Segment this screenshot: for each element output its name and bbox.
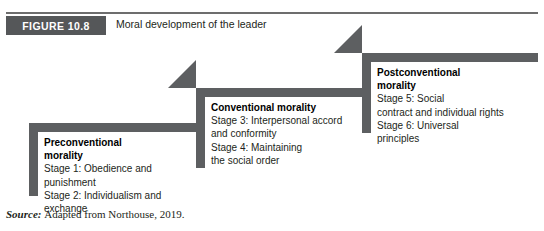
stage-block-postconventional: Postconventional morality Stage 5: Socia… <box>362 53 538 133</box>
stage-body-line-1: Stage 1: Obedience and <box>44 162 161 175</box>
source-citation: Adapted from Northouse, 2019. <box>44 208 184 220</box>
stage-block-text: Conventional morality Stage 3: Interpers… <box>211 101 342 167</box>
figure-container: FIGURE 10.8 Moral development of the lea… <box>0 0 544 231</box>
header-divider <box>6 12 538 14</box>
stage-title-line-1: Preconventional <box>44 136 161 149</box>
stage-body-line-1: Stage 5: Social <box>377 92 504 105</box>
stage-body-line-3: Stage 6: Universal <box>377 119 504 132</box>
block-frame-top <box>196 88 366 97</box>
stage-body-line-2: punishment <box>44 176 161 189</box>
block-frame-top <box>362 53 538 62</box>
stage-title-line-1: Conventional morality <box>211 101 342 114</box>
stage-body-line-4: the social order <box>211 154 342 167</box>
stage-body-line-3: Stage 4: Maintaining <box>211 141 342 154</box>
stage-block-text: Preconventional morality Stage 1: Obedie… <box>44 136 161 215</box>
stage-block-text: Postconventional morality Stage 5: Socia… <box>377 66 504 145</box>
figure-number-badge: FIGURE 10.8 <box>6 16 106 35</box>
stage-body-line-1: Stage 3: Interpersonal accord <box>211 114 342 127</box>
stage-block-conventional: Conventional morality Stage 3: Interpers… <box>196 88 366 168</box>
block-frame-top <box>29 123 199 132</box>
stage-title-line-1: Postconventional <box>377 66 504 79</box>
block-frame-left <box>29 123 38 196</box>
figure-caption: Moral development of the leader <box>116 18 267 30</box>
stage-body-line-4: principles <box>377 132 504 145</box>
source-note: Source: Adapted from Northouse, 2019. <box>6 208 184 220</box>
stage-title-line-2: morality <box>377 79 504 92</box>
stage-body-line-2: contract and individual rights <box>377 106 504 119</box>
source-label: Source: <box>6 208 41 220</box>
stage-body-line-2: and conformity <box>211 127 342 140</box>
stage-block-preconventional: Preconventional morality Stage 1: Obedie… <box>29 123 199 196</box>
stage-title-line-2: morality <box>44 149 161 162</box>
stage-body-line-3: Stage 2: Individualism and <box>44 189 161 202</box>
